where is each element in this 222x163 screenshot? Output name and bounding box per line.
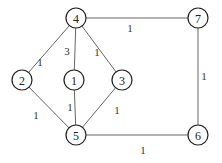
- graph-diagram: 113111111 4721356: [0, 0, 222, 163]
- edge-weight-4-7: 1: [127, 22, 133, 34]
- node-2: 2: [12, 70, 32, 90]
- edge-weight-4-3: 1: [94, 46, 100, 58]
- nodes-layer: 4721356: [12, 8, 208, 145]
- node-3: 3: [112, 70, 132, 90]
- edge-weight-2-5: 1: [33, 109, 39, 121]
- edge-weight-3-5: 1: [114, 104, 120, 116]
- node-label: 5: [73, 129, 79, 143]
- node-label: 6: [195, 129, 201, 143]
- node-1: 1: [64, 70, 84, 90]
- node-6: 6: [188, 125, 208, 145]
- edge-weight-7-6: 1: [201, 70, 207, 82]
- node-label: 7: [195, 12, 201, 26]
- node-7: 7: [188, 8, 208, 28]
- node-label: 1: [71, 74, 77, 88]
- node-label: 3: [119, 74, 125, 88]
- node-5: 5: [66, 125, 86, 145]
- edge-weight-1-5: 1: [67, 101, 73, 113]
- node-label: 4: [73, 12, 79, 26]
- node-label: 2: [19, 74, 25, 88]
- edge-weight-4-1: 3: [64, 45, 70, 57]
- edge-weight-4-2: 1: [37, 56, 43, 68]
- node-4: 4: [66, 8, 86, 28]
- edge-weight-5-6: 1: [140, 144, 146, 156]
- edges-layer: [22, 18, 198, 135]
